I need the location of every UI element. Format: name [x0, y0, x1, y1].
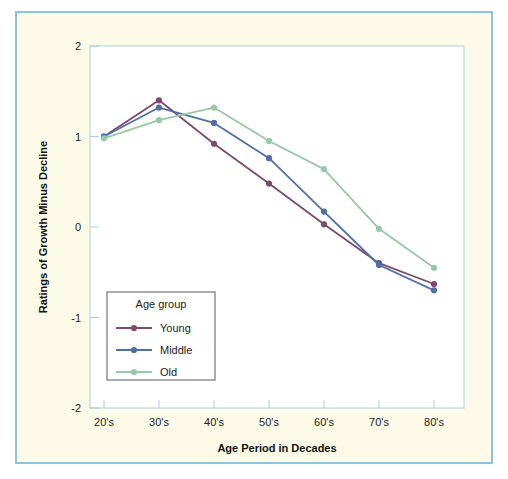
data-point	[156, 104, 162, 110]
data-point	[431, 281, 437, 287]
data-point	[266, 155, 272, 161]
data-point	[211, 141, 217, 147]
y-axis-tick-label: 0	[75, 221, 81, 233]
data-point	[321, 209, 327, 215]
legend: Age groupYoungMiddleOld	[107, 292, 215, 380]
x-axis-title: Age Period in Decades	[217, 442, 336, 454]
legend-item-label: Old	[160, 366, 177, 378]
y-axis-tick-label: -2	[71, 402, 81, 414]
legend-title: Age group	[136, 298, 187, 310]
figure-frame: 210-1-220's30's40's50's60's70's80'sAge P…	[15, 11, 493, 464]
data-point	[321, 166, 327, 172]
y-axis-title: Ratings of Growth Minus Decline	[37, 141, 49, 313]
x-axis-tick-label: 80's	[424, 416, 444, 428]
x-axis-tick-label: 30's	[149, 416, 169, 428]
data-point	[211, 104, 217, 110]
legend-item-label: Middle	[160, 344, 192, 356]
data-point	[211, 120, 217, 126]
data-point	[376, 262, 382, 268]
y-axis-tick-label: 1	[75, 131, 81, 143]
legend-swatch-marker	[131, 347, 137, 353]
data-point	[321, 221, 327, 227]
x-axis-tick-label: 50's	[259, 416, 279, 428]
x-axis-tick-label: 40's	[204, 416, 224, 428]
line-chart: 210-1-220's30's40's50's60's70's80'sAge P…	[17, 13, 491, 462]
data-point	[156, 97, 162, 103]
x-axis-tick-label: 70's	[369, 416, 389, 428]
y-axis-tick-label: -1	[71, 312, 81, 324]
chart-page: 210-1-220's30's40's50's60's70's80'sAge P…	[0, 0, 508, 479]
data-point	[266, 180, 272, 186]
legend-swatch-marker	[131, 325, 137, 331]
x-axis-tick-label: 20's	[94, 416, 114, 428]
data-point	[431, 265, 437, 271]
data-point	[431, 287, 437, 293]
data-point	[266, 138, 272, 144]
data-point	[101, 135, 107, 141]
data-point	[156, 117, 162, 123]
y-axis-tick-label: 2	[75, 40, 81, 52]
data-point	[376, 226, 382, 232]
legend-swatch-marker	[131, 369, 137, 375]
x-axis-tick-label: 60's	[314, 416, 334, 428]
legend-item-label: Young	[160, 322, 191, 334]
